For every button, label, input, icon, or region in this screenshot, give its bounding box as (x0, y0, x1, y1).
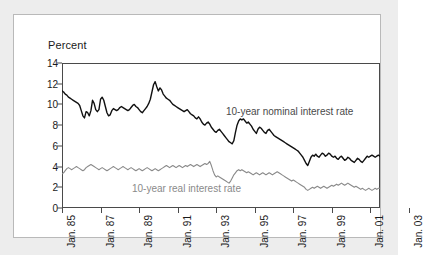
x-axis-tick-label: Jan. 89 (143, 215, 154, 248)
y-axis-tick-label: 6 (40, 140, 58, 151)
x-axis-tick-label: Jan. 99 (336, 215, 347, 248)
y-axis-tick-label: 10 (40, 99, 58, 110)
x-axis-tick-labels: Jan. 85Jan. 87Jan. 89Jan. 91Jan. 93Jan. … (62, 215, 380, 255)
x-axis-tick-label: Jan. 03 (413, 215, 424, 248)
x-axis-tick-label: Jan. 93 (220, 215, 231, 248)
x-axis-tick-label: Jan. 97 (297, 215, 308, 248)
x-axis-tick-marks (62, 208, 380, 214)
y-axis-tick-label: 8 (40, 120, 58, 131)
x-axis-tick-label: Jan. 91 (182, 215, 193, 248)
x-axis-tick-mark (101, 208, 102, 213)
annotation-real-series: 10-year real interest rate (132, 183, 241, 194)
x-axis-tick-mark (293, 208, 294, 213)
chart-card: Percent 02468101214 Jan. 85Jan. 87Jan. 8… (13, 14, 381, 238)
series-line-nominal (62, 82, 380, 166)
x-axis-tick-label: Jan. 87 (105, 215, 116, 248)
x-axis-tick-mark (409, 208, 410, 213)
x-axis-tick-mark (255, 208, 256, 213)
y-axis-tick-label: 0 (40, 203, 58, 214)
x-axis-tick-mark (178, 208, 179, 213)
y-axis-tick-label: 12 (40, 78, 58, 89)
x-axis-tick-label: Jan. 01 (374, 215, 385, 248)
x-axis-tick-label: Jan. 85 (66, 215, 77, 248)
x-axis-tick-mark (332, 208, 333, 213)
x-axis-tick-mark (370, 208, 371, 213)
y-axis-tick-label: 14 (40, 58, 58, 69)
x-axis-tick-mark (216, 208, 217, 213)
x-axis-tick-mark (62, 208, 63, 213)
y-axis-tick-labels: 02468101214 (39, 63, 58, 208)
x-axis-tick-mark (139, 208, 140, 213)
x-axis-tick-label: Jan. 95 (259, 215, 270, 248)
annotation-nominal-series: 10-year nominal interest rate (226, 106, 353, 117)
y-axis-title: Percent (48, 39, 87, 51)
y-axis-tick-label: 2 (40, 182, 58, 193)
y-axis-tick-label: 4 (40, 161, 58, 172)
